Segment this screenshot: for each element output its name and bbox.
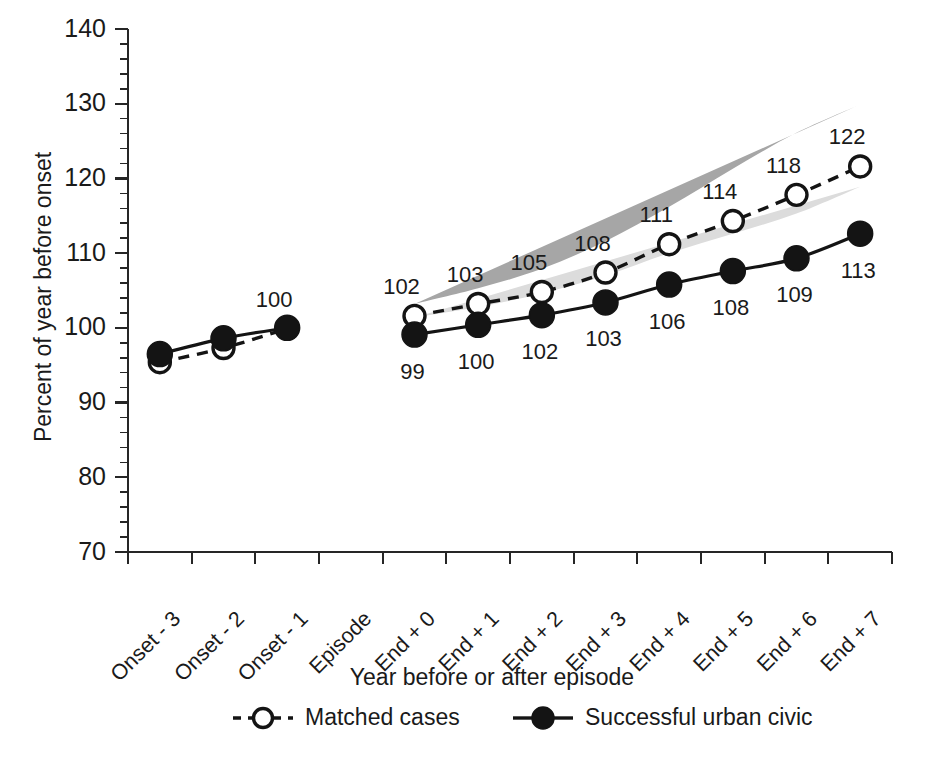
data-point-label: 118 bbox=[766, 153, 801, 178]
data-point-marker bbox=[659, 234, 680, 255]
data-point-marker bbox=[595, 262, 616, 283]
y-axis-tick-label: 140 bbox=[64, 14, 106, 42]
data-point-label: 106 bbox=[649, 309, 686, 334]
data-point-marker bbox=[720, 259, 745, 284]
chart-legend: Matched casesSuccessful urban civic bbox=[233, 704, 813, 730]
y-axis-title: Percent of year before onset bbox=[30, 151, 56, 442]
data-point-marker bbox=[786, 184, 807, 205]
data-point-label: 99 bbox=[400, 359, 424, 384]
y-axis-ticks bbox=[115, 29, 128, 552]
data-point-marker bbox=[848, 221, 873, 246]
y-axis-tick-label: 120 bbox=[64, 163, 106, 191]
legend-marker bbox=[254, 709, 273, 728]
y-axis-tick-label: 130 bbox=[64, 88, 106, 116]
data-point-marker bbox=[593, 290, 618, 315]
chart-container: 708090100110120130140 Onset - 3Onset - 2… bbox=[0, 0, 930, 761]
data-point-marker bbox=[466, 312, 491, 337]
data-point-marker bbox=[402, 322, 427, 347]
x-axis-ticks bbox=[128, 552, 892, 564]
y-axis-tick-label: 90 bbox=[78, 387, 106, 415]
x-axis-tick-label: End + 4 bbox=[625, 607, 695, 677]
y-axis-tick-label: 100 bbox=[64, 312, 106, 340]
data-point-label: 103 bbox=[447, 262, 484, 287]
data-point-label: 108 bbox=[574, 231, 611, 256]
y-axis-tick-label: 70 bbox=[78, 537, 106, 565]
data-point-label: 122 bbox=[829, 124, 866, 149]
data-point-label: 103 bbox=[585, 326, 622, 351]
data-point-marker bbox=[531, 281, 552, 302]
legend-marker bbox=[532, 707, 554, 729]
data-point-label: 109 bbox=[776, 282, 813, 307]
data-point-marker bbox=[468, 293, 489, 314]
data-point-label: 108 bbox=[712, 295, 749, 320]
x-axis-tick-label: Onset - 1 bbox=[233, 607, 313, 687]
data-point-marker bbox=[722, 211, 743, 232]
data-point-label: 111 bbox=[639, 202, 672, 227]
data-point-label: 113 bbox=[841, 258, 876, 283]
data-point-label: 100 bbox=[458, 349, 495, 374]
x-axis-tick-label: End + 6 bbox=[752, 607, 822, 677]
data-point-label: 105 bbox=[510, 250, 547, 275]
y-axis-tick-labels: 708090100110120130140 bbox=[64, 14, 106, 565]
data-point-label: 100 bbox=[256, 287, 293, 312]
x-axis-tick-label: End + 7 bbox=[816, 607, 886, 677]
y-axis-tick-label: 110 bbox=[66, 238, 106, 266]
data-point-marker bbox=[147, 342, 172, 367]
data-point-marker bbox=[657, 272, 682, 297]
data-point-marker bbox=[211, 326, 236, 351]
line-chart: 708090100110120130140 Onset - 3Onset - 2… bbox=[0, 0, 930, 761]
data-point-label: 114 bbox=[702, 179, 737, 204]
data-point-label: 102 bbox=[383, 274, 420, 299]
data-point-marker bbox=[784, 246, 809, 271]
data-point-label: 102 bbox=[521, 339, 558, 364]
legend-label: Successful urban civic bbox=[585, 704, 813, 730]
x-axis-title: Year before or after episode bbox=[350, 664, 634, 690]
legend-label: Matched cases bbox=[305, 704, 460, 730]
y-axis-tick-label: 80 bbox=[78, 462, 106, 490]
data-point-marker bbox=[850, 156, 871, 177]
data-point-marker bbox=[529, 303, 554, 328]
x-axis-tick-label: End + 5 bbox=[689, 607, 759, 677]
data-point-marker bbox=[275, 315, 300, 340]
